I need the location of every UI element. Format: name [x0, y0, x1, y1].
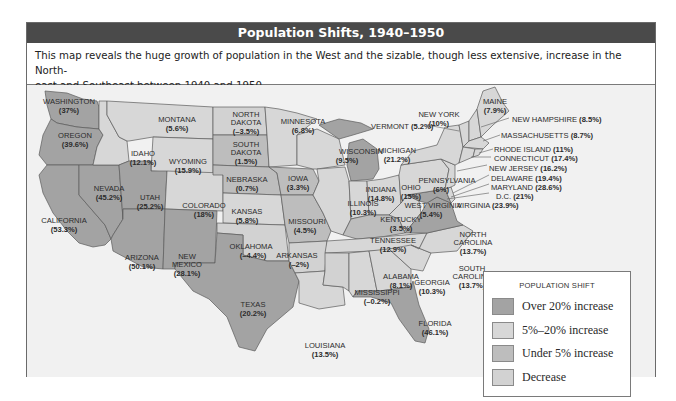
label-utah: UTAH — [140, 193, 160, 202]
label-oklahoma: OKLAHOMA — [229, 242, 273, 251]
label-pennsylvania: PENNSYLVANIA — [418, 176, 476, 185]
label-tennessee: TENNESSEE — [370, 236, 416, 245]
label-maryland: MARYLAND (28.6%) — [491, 183, 562, 192]
svg-text:(18%): (18%) — [194, 210, 215, 219]
svg-text:(10.3%): (10.3%) — [350, 208, 377, 217]
label-florida: FLORIDA — [419, 319, 453, 328]
svg-text:CAROLINA: CAROLINA — [454, 238, 494, 247]
svg-text:(53.3%): (53.3%) — [51, 225, 78, 234]
label-montana: MONTANA — [158, 115, 196, 124]
svg-text:(45.2%): (45.2%) — [96, 193, 123, 202]
label-oregon: OREGON — [58, 131, 92, 140]
us-map: WASHINGTON (37%) OREGON (39.6%) CALIFORN… — [27, 85, 655, 377]
label-iowa: IOWA — [288, 174, 309, 183]
label-arizona: ARIZONA — [125, 253, 160, 262]
svg-text:(4.5%): (4.5%) — [294, 226, 317, 235]
svg-text:MEXICO: MEXICO — [172, 260, 202, 269]
label-kansas: KANSAS — [232, 207, 263, 216]
svg-text:(1.5%): (1.5%) — [235, 157, 258, 166]
svg-text:DAKOTA: DAKOTA — [231, 118, 263, 127]
label-dc: D.C. (21%) — [496, 192, 534, 201]
svg-text:(39.6%): (39.6%) — [62, 140, 89, 149]
svg-text:(3.5%): (3.5%) — [390, 224, 413, 233]
svg-text:(21.2%): (21.2%) — [384, 155, 411, 164]
label-new-hampshire: NEW HAMPSHIRE (8.5%) — [512, 115, 602, 124]
legend-swatch-5-to-20 — [492, 322, 514, 339]
label-virginia: VIRGINIA (23.9%) — [457, 201, 519, 210]
svg-text:(13.7%): (13.7%) — [459, 281, 486, 290]
map-caption: This map reveals the huge growth of popu… — [27, 43, 655, 85]
label-wisconsin: WISCONSIN — [339, 147, 383, 156]
svg-text:DAKOTA: DAKOTA — [231, 148, 263, 157]
svg-text:(–4.4%): (–4.4%) — [240, 251, 267, 260]
svg-text:(7.9%): (7.9%) — [484, 106, 507, 115]
label-nebraska: NEBRASKA — [226, 175, 268, 184]
legend-title: POPULATION SHIFT — [484, 281, 630, 290]
svg-text:(5.6%): (5.6%) — [166, 124, 189, 133]
label-michigan: MICHIGAN — [378, 146, 416, 155]
svg-text:(20.2%): (20.2%) — [240, 309, 267, 318]
label-rhode-island: RHODE ISLAND (11%) — [494, 145, 573, 154]
label-new-york: NEW YORK — [418, 110, 459, 119]
label-georgia: GEORGIA — [414, 278, 450, 287]
svg-text:(13.7%): (13.7%) — [460, 247, 487, 256]
svg-text:(12.1%): (12.1%) — [130, 158, 157, 167]
svg-text:(6%): (6%) — [433, 185, 450, 194]
label-missouri: MISSOURI — [288, 217, 326, 226]
svg-text:(37%): (37%) — [59, 106, 80, 115]
legend-swatch-over-20 — [492, 298, 514, 315]
label-minnesota: MINNESOTA — [281, 117, 327, 126]
label-colorado: COLORADO — [182, 201, 226, 210]
svg-text:(13.5%): (13.5%) — [312, 350, 339, 359]
state-rhode-island — [473, 149, 483, 157]
svg-text:(15.9%): (15.9%) — [175, 166, 202, 175]
svg-text:(3.3%): (3.3%) — [287, 183, 310, 192]
svg-text:(12.9%): (12.9%) — [380, 245, 407, 254]
svg-text:(46.1%): (46.1%) — [422, 328, 449, 337]
label-vermont: VERMONT (5.2%) — [371, 122, 434, 131]
legend-item-5-to-20: 5%–20% increase — [484, 319, 630, 343]
svg-text:(5.4%): (5.4%) — [420, 210, 443, 219]
svg-text:(8.1%): (8.1%) — [390, 281, 413, 290]
svg-text:(10.3%): (10.3%) — [419, 287, 446, 296]
label-louisiana: LOUISIANA — [305, 341, 346, 350]
label-idaho: IDAHO — [131, 149, 155, 158]
svg-text:(28.1%): (28.1%) — [174, 269, 201, 278]
svg-text:(25.2%): (25.2%) — [137, 202, 164, 211]
state-mississippi — [323, 253, 349, 291]
svg-text:(5.8%): (5.8%) — [236, 216, 259, 225]
caption-line-1: This map reveals the huge growth of popu… — [35, 48, 647, 78]
svg-text:(–3.5%): (–3.5%) — [233, 127, 260, 136]
label-indiana: INDIANA — [366, 185, 398, 194]
label-arkansas: ARKANSAS — [276, 251, 317, 260]
legend-item-over-20: Over 20% increase — [484, 295, 630, 319]
label-kentucky: KENTUCKY — [380, 215, 421, 224]
legend-item-decrease: Decrease — [484, 366, 630, 390]
svg-text:(–0.2%): (–0.2%) — [364, 297, 391, 306]
label-illinois: ILLINOIS — [347, 199, 378, 208]
legend-item-under-5: Under 5% increase — [484, 342, 630, 366]
legend-swatch-under-5 — [492, 345, 514, 362]
label-massachusetts: MASSACHUSETTS (8.7%) — [501, 131, 593, 140]
label-california: CALIFORNIA — [41, 216, 88, 225]
label-texas: TEXAS — [241, 300, 266, 309]
label-new-jersey: NEW JERSEY (16.2%) — [489, 164, 567, 173]
svg-text:(15%): (15%) — [401, 192, 422, 201]
legend-swatch-decrease — [492, 369, 514, 386]
svg-text:(6.8%): (6.8%) — [292, 126, 315, 135]
state-new-york — [401, 125, 463, 165]
map-title: Population Shifts, 1940–1950 — [27, 23, 655, 43]
map-legend: POPULATION SHIFT Over 20% increase 5%–20… — [483, 271, 631, 397]
label-delaware: DELAWARE (19.4%) — [491, 174, 562, 183]
svg-text:(0.7%): (0.7%) — [236, 184, 259, 193]
map-panel: Population Shifts, 1940–1950 This map re… — [26, 22, 656, 377]
svg-text:(50.1%): (50.1%) — [129, 262, 156, 271]
label-connecticut: CONNECTICUT (17.4%) — [494, 154, 578, 163]
label-washington: WASHINGTON — [43, 97, 95, 106]
label-nevada: NEVADA — [94, 184, 126, 193]
label-maine: MAINE — [483, 97, 507, 106]
label-wyoming: WYOMING — [169, 157, 207, 166]
svg-text:(9.5%): (9.5%) — [336, 156, 359, 165]
label-west-virginia: WEST VIRGINIA — [404, 201, 462, 210]
svg-text:(–2%): (–2%) — [289, 260, 310, 269]
